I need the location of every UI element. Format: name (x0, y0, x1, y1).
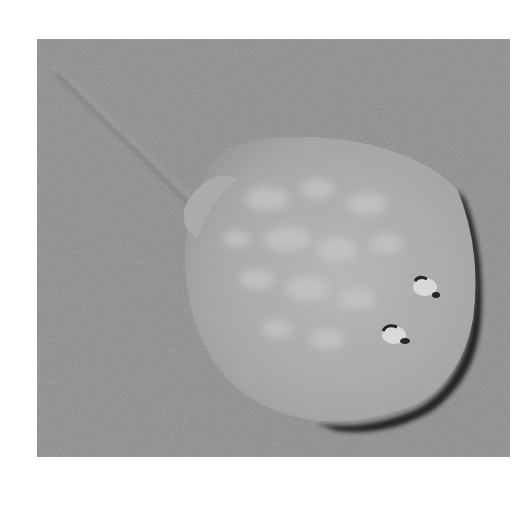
stingray-illustration (37, 39, 510, 457)
stingray-photo (37, 39, 510, 457)
